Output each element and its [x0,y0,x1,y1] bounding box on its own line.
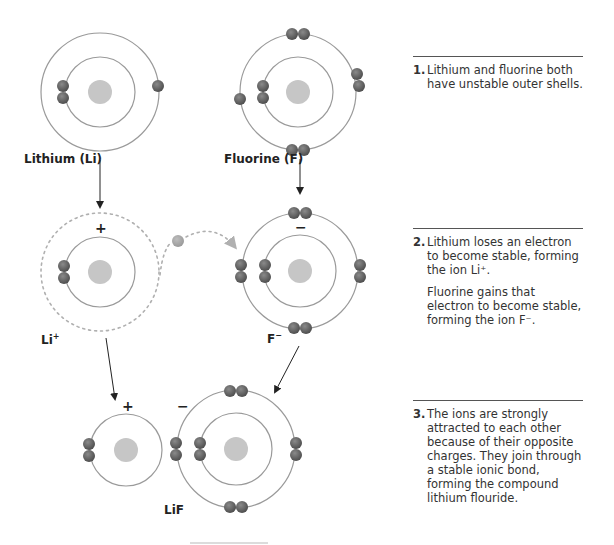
step-1-text: Lithium and fluorine both have unstable … [427,63,583,91]
step-3: 3. The ions are strongly attracted to ea… [413,400,583,513]
label-compound: LiF [164,503,184,517]
arrow-f-to-lif [275,346,299,392]
step-2-number: 2. [413,235,427,335]
step-2-rule [413,228,583,229]
f-ion-symbol: F [267,332,275,346]
plus-sign-lif: + [122,398,134,414]
step-1-rule [413,56,583,57]
step-3-number: 3. [413,407,427,513]
step-3-text: The ions are strongly attracted to each … [427,407,583,505]
step-2: 2. Lithium loses an electron to become s… [413,228,583,335]
plus-sign-li-ion: + [95,220,107,236]
step-2-text-b: Fluorine gains that electron to become s… [427,285,583,327]
step-1: 1. Lithium and fluorine both have unstab… [413,56,583,99]
fluorine-atom [234,28,365,156]
nucleus-icon [88,80,112,104]
step-3-rule [413,400,583,401]
label-lithium: Lithium (Li) [24,152,102,166]
step-2-text-a: Lithium loses an electron to become stab… [427,235,583,277]
li-ion-symbol: Li [41,333,53,347]
arrow-li-to-lif [106,338,115,399]
minus-sign-f-ion: − [295,219,307,235]
step-1-number: 1. [413,63,427,99]
label-lithium-ion: Li+ [41,332,59,347]
label-fluoride-ion: F− [267,331,282,346]
label-fluorine: Fluorine (F) [224,152,303,166]
transferred-electron [160,231,235,275]
lithium-fluoride-compound [83,385,302,513]
f-ion-charge: − [275,331,282,340]
li-ion-charge: + [53,332,60,341]
minus-sign-lif: − [177,398,189,414]
lithium-atom [41,33,164,151]
